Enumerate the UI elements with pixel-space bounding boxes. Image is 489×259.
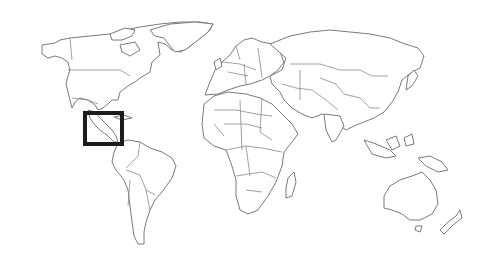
india [324,114,344,142]
madagascar [286,172,296,198]
australia [384,172,438,220]
new-zealand [440,210,462,234]
tasmania [415,226,422,232]
world-map [0,0,489,259]
southeast-asia-islands [364,134,414,158]
highlight-box-central-america [83,111,124,146]
asia [270,30,424,130]
new-guinea [418,156,448,172]
south-america [112,140,176,244]
